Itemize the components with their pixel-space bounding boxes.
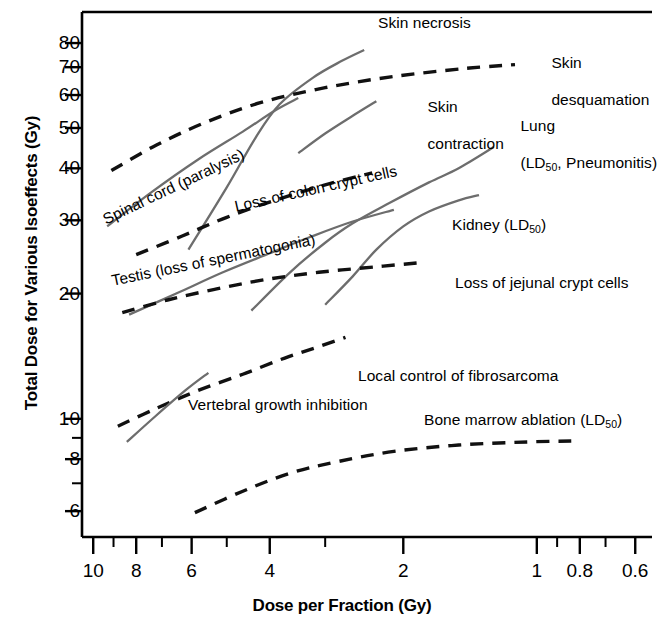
annotation-bone-marrow-ablation: Bone marrow ablation (LD50): [424, 411, 622, 429]
bone-marrow-ld-subscript: 50: [605, 418, 617, 430]
annotation-vertebral-growth-inhibition: Vertebral growth inhibition: [188, 396, 368, 414]
annotation-local-control-of-fibrosarcoma: Local control of fibrosarcoma: [358, 367, 558, 385]
curve-skin-contraction: [298, 101, 376, 153]
annotation-skin-contraction-line1: Skin: [427, 98, 457, 115]
y-tick-label: 20: [59, 284, 80, 303]
lung-ld-subscript: 50: [546, 161, 558, 173]
annotation-lung-line2: (LD50, Pneumonitis): [520, 154, 657, 171]
y-axis-ticks: [65, 43, 82, 511]
annotation-lung-line1: Lung: [520, 117, 555, 134]
x-axis-ticks: [93, 537, 635, 554]
y-axis-title: Total Dose for Various Isoeffects (Gy): [22, 43, 42, 483]
kidney-ld-prefix: Kidney (LD: [452, 216, 529, 233]
bone-marrow-ld-prefix: Bone marrow ablation (LD: [424, 411, 605, 428]
y-tick-label: 70: [59, 57, 80, 76]
x-axis-title: Dose per Fraction (Gy): [82, 596, 602, 616]
annotation-skin-contraction: Skin contraction: [410, 80, 504, 171]
y-tick-label: 50: [59, 118, 80, 137]
y-tick-label: 10: [59, 409, 80, 428]
x-tick-label: 6: [152, 561, 232, 580]
lung-ld-suffix: , Pneumonitis): [557, 154, 657, 171]
kidney-ld-suffix: ): [541, 216, 546, 233]
annotation-skin-contraction-line2: contraction: [427, 135, 503, 152]
lung-ld-prefix: (LD: [520, 154, 545, 171]
y-tick-label: 8: [69, 449, 80, 468]
y-tick-label: 6: [69, 501, 80, 520]
annotation-skin-desquamation-line1: Skin: [551, 54, 581, 71]
kidney-ld-subscript: 50: [529, 223, 541, 235]
y-tick-label: 80: [59, 33, 80, 52]
annotation-lung: Lung (LD50, Pneumonitis): [503, 99, 657, 190]
y-tick-label: 60: [59, 85, 80, 104]
annotation-kidney: Kidney (LD50): [452, 216, 546, 234]
y-tick-label: 30: [59, 210, 80, 229]
curve-bone-marrow-ablation-ld50: [195, 441, 575, 513]
annotation-skin-necrosis: Skin necrosis: [378, 14, 471, 32]
x-tick-label: 4: [230, 561, 310, 580]
y-tick-label: 40: [59, 158, 80, 177]
annotation-loss-of-jejunal-crypt-cells: Loss of jejunal crypt cells: [455, 274, 629, 292]
x-tick-label: 0.6: [595, 561, 661, 580]
x-tick-label: 2: [363, 561, 443, 580]
bone-marrow-ld-suffix: ): [617, 411, 622, 428]
